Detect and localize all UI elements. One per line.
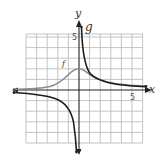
endpoint-marker	[13, 88, 15, 90]
curve-f-label: f	[61, 59, 67, 68]
endpoint-marker	[75, 151, 78, 154]
grid	[26, 34, 143, 143]
x-axis-label: x	[149, 83, 156, 96]
endpoint-marker	[80, 26, 82, 28]
endpoint-marker	[145, 85, 148, 88]
x-tick-label-5: 5	[130, 93, 135, 102]
function-graph: y x g f 5 5	[0, 0, 156, 161]
y-axis-label: y	[74, 7, 82, 20]
y-tick-label-5: 5	[72, 33, 77, 42]
curve-g-right-branch	[82, 27, 147, 87]
curve-g-label: g	[85, 20, 93, 34]
endpoint-marker	[13, 91, 16, 94]
